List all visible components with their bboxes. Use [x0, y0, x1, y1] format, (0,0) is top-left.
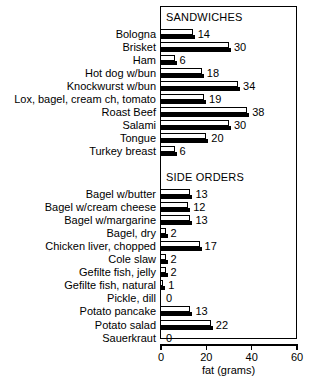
bar-shadow: [161, 48, 231, 52]
bar-row: Lox, bagel, cream ch, tomato19: [0, 93, 311, 106]
bar-value-label: 38: [252, 106, 264, 118]
bar-row: Bagel w/margarine13: [0, 214, 311, 227]
bar-value-label: 0: [166, 332, 172, 344]
bar: [161, 280, 163, 291]
bar-shadow: [161, 139, 208, 143]
bar-row-label: Pickle, dill: [107, 292, 156, 304]
bar-value-label: 6: [180, 145, 186, 157]
bar-value-label: 14: [198, 28, 210, 40]
bar: [161, 94, 204, 105]
bar-row: Knockwurst w/bun34: [0, 80, 311, 93]
bar-shadow: [161, 74, 204, 78]
bar: [161, 254, 166, 265]
bar-value-label: 30: [234, 119, 246, 131]
bar-row: Bagel w/butter13: [0, 188, 311, 201]
bar-value-label: 2: [171, 227, 177, 239]
bar-shadow: [161, 260, 168, 264]
bar-row-label: Bagel w/margarine: [64, 214, 156, 226]
bar-row-label: Chicken liver, chopped: [45, 240, 156, 252]
bar-row: Turkey breast6: [0, 145, 311, 158]
bar-row: Tongue20: [0, 132, 311, 145]
bar-row-label: Ham: [133, 54, 156, 66]
bar-value-label: 13: [195, 214, 207, 226]
bar-row-label: Salami: [122, 119, 156, 131]
x-axis-tick-label: 0: [158, 351, 164, 363]
bar-row-label: Bagel w/butter: [86, 188, 156, 200]
bar-shadow: [161, 126, 231, 130]
bar: [161, 189, 190, 200]
bar-value-label: 30: [234, 41, 246, 53]
bar-row: Potato pancake13: [0, 305, 311, 318]
bar-row-label: Bagel w/cream cheese: [45, 201, 156, 213]
bar-row-label: Bologna: [116, 28, 156, 40]
bar-value-label: 13: [195, 188, 207, 200]
bar-value-label: 2: [171, 253, 177, 265]
bar: [161, 215, 190, 226]
bar: [161, 81, 238, 92]
bar-shadow: [161, 234, 168, 238]
x-axis-tick-label: 20: [200, 351, 212, 363]
x-axis-tick: [251, 344, 253, 350]
bar-value-label: 12: [193, 201, 205, 213]
bar-row-label: Hot dog w/bun: [85, 67, 156, 79]
bar-shadow: [161, 100, 206, 104]
bar-row-label: Knockwurst w/bun: [67, 80, 156, 92]
x-axis-tick: [160, 344, 162, 350]
section-header-side-orders: SIDE ORDERS: [166, 171, 244, 183]
bar: [161, 55, 175, 66]
bar-shadow: [161, 113, 249, 117]
bar-row: Roast Beef38: [0, 106, 311, 119]
bar-row-label: Gefilte fish, natural: [64, 279, 156, 291]
bar-row-label: Lox, bagel, cream ch, tomato: [14, 93, 156, 105]
bar-row-label: Tongue: [120, 132, 156, 144]
bar: [161, 133, 206, 144]
x-axis-title: fat (grams): [160, 364, 297, 376]
bar-row-label: Gefilte fish, jelly: [79, 266, 156, 278]
fat-grams-bar-chart: SANDWICHES SIDE ORDERS Bologna14Brisket3…: [0, 0, 311, 378]
bar-value-label: 13: [195, 305, 207, 317]
bar-value-label: 0: [166, 292, 172, 304]
bar: [161, 241, 200, 252]
bar-row: Bagel w/cream cheese12: [0, 201, 311, 214]
bar-shadow: [161, 61, 177, 65]
bar-shadow: [161, 312, 192, 316]
bar-shadow: [161, 208, 190, 212]
x-axis-tick: [296, 344, 298, 350]
bar-row-label: Potato salad: [95, 319, 156, 331]
bar-row: Gefilte fish, jelly2: [0, 266, 311, 279]
x-axis-tick-label: 60: [291, 351, 303, 363]
bar-shadow: [161, 35, 195, 39]
bar-row: Gefilte fish, natural1: [0, 279, 311, 292]
bar: [161, 202, 188, 213]
bar-value-label: 20: [211, 132, 223, 144]
bar-shadow: [161, 87, 240, 91]
bar: [161, 29, 193, 40]
bar-row-label: Brisket: [122, 41, 156, 53]
bar-shadow: [161, 195, 192, 199]
bar-value-label: 1: [168, 279, 174, 291]
bar-shadow: [161, 152, 177, 156]
bar-row-label: Potato pancake: [80, 305, 156, 317]
bar-row-label: Sauerkraut: [102, 332, 156, 344]
bar-value-label: 18: [207, 67, 219, 79]
bar-shadow: [161, 273, 168, 277]
bar-value-label: 22: [216, 319, 228, 331]
bar-row-label: Bagel, dry: [106, 227, 156, 239]
bar-row: Brisket30: [0, 41, 311, 54]
bar-row: Cole slaw2: [0, 253, 311, 266]
bar-value-label: 19: [209, 93, 221, 105]
bar-value-label: 34: [243, 80, 255, 92]
bar: [161, 306, 190, 317]
bar-value-label: 17: [205, 240, 217, 252]
bar-row: Chicken liver, chopped17: [0, 240, 311, 253]
bar-row-label: Roast Beef: [102, 106, 156, 118]
x-axis-tick: [206, 344, 208, 350]
bar: [161, 42, 229, 53]
bar-row: Hot dog w/bun18: [0, 67, 311, 80]
x-axis-tick-label: 40: [246, 351, 258, 363]
bar-shadow: [161, 247, 202, 251]
bar-row-label: Turkey breast: [89, 145, 156, 157]
bar-row: Ham6: [0, 54, 311, 67]
x-axis-line: [160, 344, 297, 346]
bar-shadow: [161, 326, 213, 330]
